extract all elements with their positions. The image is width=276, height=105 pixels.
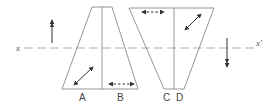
left-trapezoid (62, 7, 138, 89)
label-a: A (79, 92, 86, 103)
axis-label-x-prime: x' (255, 38, 263, 48)
up-arrow-icon (50, 20, 54, 43)
axis-label-x: x (15, 43, 20, 53)
right-trapezoid (129, 8, 214, 89)
trapezoid-diagram: x x' A B C D (0, 0, 276, 105)
label-c: C (163, 92, 170, 103)
down-arrow-icon (225, 38, 229, 67)
diagonal-arrow-a-icon (74, 67, 93, 85)
diagonal-arrow-d-icon (185, 14, 201, 30)
label-d: D (176, 92, 183, 103)
label-b: B (117, 92, 124, 103)
